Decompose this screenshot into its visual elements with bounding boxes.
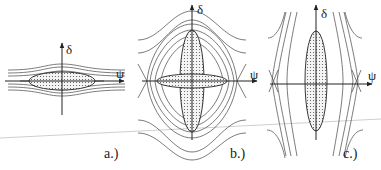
panel-c: [267, 5, 372, 158]
panel-b: [138, 5, 257, 160]
panel-label-b: b.): [230, 146, 245, 162]
y-axis-label-a: δ: [66, 42, 72, 58]
x-axis-label-b: ψ: [250, 67, 258, 83]
panel-label-a: a.): [104, 146, 118, 162]
x-axis-label-c: ψ: [368, 68, 376, 84]
phase-space-figure: [0, 0, 381, 170]
panel-label-c: c.): [343, 146, 357, 162]
x-axis-label-a: ψ: [116, 66, 124, 82]
y-axis-label-c: δ: [321, 6, 327, 22]
panel-a: [5, 43, 125, 115]
y-axis-label-b: δ: [197, 2, 203, 18]
